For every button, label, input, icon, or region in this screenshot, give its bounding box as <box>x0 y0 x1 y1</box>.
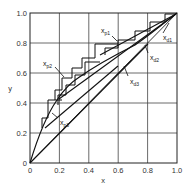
x-tick-1.0: 1.0 <box>172 166 182 175</box>
x-tick-0.6: 0.6 <box>113 166 123 175</box>
y-tick-0.4: 0.4 <box>17 99 27 108</box>
y-axis-label: y <box>8 84 12 93</box>
y-tick-0.6: 0.6 <box>17 69 27 78</box>
label-xd1: xd1 <box>163 34 172 43</box>
x-tick-0.8: 0.8 <box>142 166 152 175</box>
x-tick-0.4: 0.4 <box>84 166 94 175</box>
x-axis-ticks: 0 0.2 0.4 0.6 0.8 1.0 <box>28 166 182 175</box>
mccabe-thiele-diagram: 1.0 0.8 0.6 0.4 0.2 0 0 0.2 0.4 0.6 0.8 … <box>0 0 191 190</box>
label-xp3: xp3 <box>60 119 69 128</box>
y-tick-0: 0 <box>23 159 27 168</box>
y-axis-ticks: 1.0 0.8 0.6 0.4 0.2 0 <box>17 9 27 168</box>
label-xp2: xp2 <box>43 60 52 69</box>
x-tick-0.2: 0.2 <box>54 166 64 175</box>
x-tick-0: 0 <box>28 166 32 175</box>
y-tick-0.2: 0.2 <box>17 129 27 138</box>
y-tick-0.8: 0.8 <box>17 39 27 48</box>
label-xp1: xp1 <box>101 27 110 36</box>
y-tick-1.0: 1.0 <box>17 9 27 18</box>
label-xd3: xd3 <box>130 78 139 87</box>
label-xd2: xd2 <box>150 54 159 63</box>
annotations <box>52 23 169 118</box>
x-axis-label: x <box>101 176 105 185</box>
